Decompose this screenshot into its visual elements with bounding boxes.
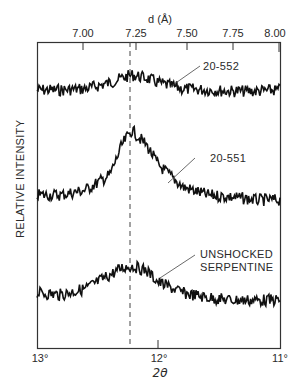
top-tick-8.00: 8.00 [264, 27, 285, 39]
curve-20-552 [37, 70, 280, 97]
leader-line-unshocked [160, 255, 195, 278]
bottom-tick-11: 11° [272, 352, 288, 364]
bottom-axis-title: 2θ [153, 366, 169, 380]
top-axis [83, 42, 279, 52]
top-tick-7.50: 7.50 [176, 27, 197, 39]
top-tick-7.75: 7.75 [222, 27, 243, 39]
leader-line-20-552 [170, 66, 200, 87]
top-tick-7.00: 7.00 [72, 27, 93, 39]
label-serpentine: SERPENTINE [200, 261, 273, 273]
y-axis-title: RELATIVE INTENSITY [14, 119, 26, 238]
label-20-551: 20-551 [210, 152, 246, 164]
bottom-tick-13: 13° [32, 352, 49, 364]
label-unshocked: UNSHOCKED [200, 248, 273, 260]
bottom-tick-12: 12° [151, 352, 168, 364]
curve-20-551 [37, 127, 280, 207]
top-axis-title: d (Å) [148, 13, 172, 25]
top-tick-7.25: 7.25 [125, 27, 146, 39]
xrd-chart: 7.00 7.25 7.50 7.75 8.00 d (Å) 13° 12° 1… [0, 0, 305, 391]
label-20-552: 20-552 [203, 60, 239, 72]
